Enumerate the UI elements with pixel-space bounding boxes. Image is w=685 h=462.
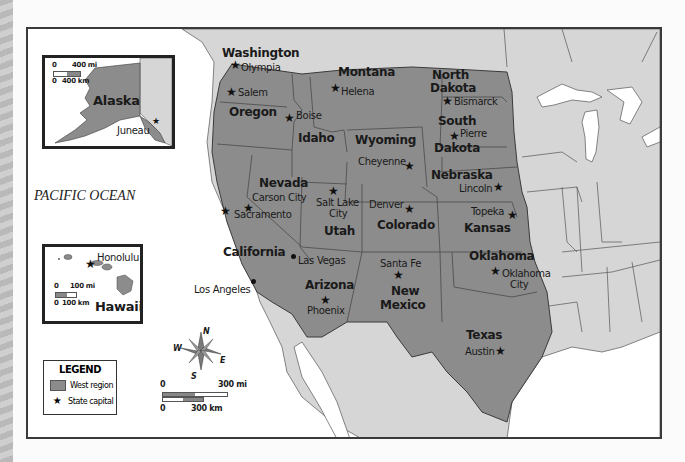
state-label-south-dakota-line2: Dakota	[434, 142, 480, 154]
ocean-label: PACIFIC OCEAN	[34, 189, 135, 203]
capital-label-salt-lake-line1: Salt Lake	[316, 198, 359, 208]
capital-label-pierre: Pierre	[460, 129, 487, 139]
capital-label-boise: Boise	[296, 111, 322, 121]
state-label-nebraska: Nebraska	[431, 169, 493, 181]
state-label-south-dakota-line1: South	[438, 115, 476, 127]
scale-km: 300 km	[191, 405, 222, 413]
state-label-colorado: Colorado	[377, 219, 435, 231]
capital-star-salt-lake-city: ★	[328, 185, 339, 197]
state-label-kansas: Kansas	[464, 222, 511, 234]
capital-star-juneau: ★	[152, 117, 160, 126]
capital-label-denver: Denver	[369, 200, 404, 210]
hawaii-inset: ★ Honolulu 0 100 mi 0 100 km Hawaii	[42, 244, 143, 324]
state-label-new-mexico-line2: Mexico	[380, 299, 426, 311]
alaska-inset: 0 400 mi 0 400 km Alaska ★ Juneau	[42, 55, 175, 149]
alaska-scale-zero-mi: 0	[52, 62, 57, 69]
state-label-nevada: Nevada	[259, 177, 308, 189]
alaska-scale-miles: 400 mi	[72, 62, 97, 69]
legend-item-state-capital: ★State capital	[50, 395, 113, 406]
hawaii-label: Hawaii	[95, 300, 143, 313]
state-label-wyoming: Wyoming	[355, 134, 416, 146]
capital-star-sacramento: ★	[220, 205, 231, 217]
state-label-oregon: Oregon	[229, 106, 277, 118]
capital-star-olympia: ★	[230, 59, 241, 71]
capital-star-topeka: ★	[507, 209, 518, 221]
hawaii-scale-bar	[55, 292, 77, 298]
compass-east: E	[220, 357, 225, 365]
compass-west: W	[173, 345, 182, 353]
capital-star-bismarck: ★	[442, 95, 453, 107]
legend-item-west-region: West region	[50, 380, 113, 391]
capital-label-phoenix: Phoenix	[307, 306, 345, 316]
capital-star-denver: ★	[404, 203, 415, 215]
scale-zero-mi: 0	[160, 381, 165, 389]
state-label-new-mexico-line1: New	[391, 285, 419, 297]
alaska-scale-zero-km: 0	[52, 78, 57, 85]
capital-star-honolulu: ★	[85, 258, 96, 270]
capital-star-austin: ★	[495, 345, 506, 357]
legend-box: LEGEND West region ★State capital	[43, 360, 117, 415]
scale-miles: 300 mi	[218, 381, 247, 389]
capital-label-olympia: Olympia	[241, 63, 280, 73]
capital-label-salem: Salem	[238, 88, 268, 98]
compass-south: S	[191, 373, 197, 381]
state-label-north-dakota-line2: Dakota	[430, 82, 476, 94]
capital-label-austin: Austin	[465, 347, 495, 357]
capital-label-honolulu: Honolulu	[97, 253, 139, 263]
capital-star-salem: ★	[226, 86, 237, 98]
state-label-oklahoma: Oklahoma	[469, 250, 534, 262]
city-label-las-vegas: Las Vegas	[298, 256, 345, 266]
hawaii-scale-miles: 100 mi	[70, 283, 95, 290]
capital-label-sacramento: Sacramento	[234, 210, 291, 220]
hawaii-scale-zero-km: 0	[54, 300, 59, 307]
hawaii-scale-km: 100 km	[62, 300, 89, 307]
alaska-label: Alaska	[93, 94, 140, 107]
capital-label-helena: Helena	[341, 87, 374, 97]
capital-label-lincoln: Lincoln	[459, 184, 492, 194]
state-label-north-dakota-line1: North	[432, 69, 469, 81]
capital-label-salt-lake-line2: City	[329, 209, 347, 219]
capital-label-carson-city: Carson City	[252, 193, 306, 203]
capital-label-juneau: Juneau	[117, 126, 149, 136]
compass-north: N	[203, 328, 210, 336]
state-label-montana: Montana	[338, 66, 395, 78]
decorative-page-edge	[0, 0, 13, 462]
capital-star-oklahoma-city: ★	[490, 265, 501, 277]
state-label-utah: Utah	[324, 225, 355, 237]
scale-zero-km: 0	[160, 405, 165, 413]
capital-star-lincoln: ★	[493, 181, 504, 193]
star-icon: ★	[50, 395, 64, 406]
capital-star-helena: ★	[330, 82, 341, 94]
city-label-los-angeles: Los Angeles	[194, 285, 250, 295]
state-label-texas: Texas	[466, 329, 502, 341]
capital-star-santa-fe: ★	[393, 269, 404, 281]
capital-label-okc-line2: City	[510, 280, 528, 290]
alaska-scale-km: 400 km	[62, 78, 89, 85]
capital-label-bismarck: Bismarck	[454, 97, 498, 107]
state-label-arizona: Arizona	[305, 279, 354, 291]
state-label-california: California	[223, 246, 285, 258]
hawaii-scale-zero-mi: 0	[54, 283, 59, 290]
capital-label-okc-line1: Oklahoma	[502, 269, 551, 279]
state-label-idaho: Idaho	[298, 132, 334, 144]
capital-label-topeka: Topeka	[471, 207, 504, 217]
capital-star-cheyenne: ★	[404, 160, 415, 172]
capital-label-cheyenne: Cheyenne	[358, 157, 406, 167]
map-frame: PACIFIC OCEAN Washington ★ Olympia ★ Sal…	[26, 27, 662, 439]
gray-swatch-icon	[50, 380, 66, 391]
capital-star-boise: ★	[284, 112, 295, 124]
city-dot-las-vegas	[291, 254, 296, 259]
scale-bar-km	[162, 397, 204, 402]
legend-title: LEGEND	[44, 364, 116, 375]
city-dot-los-angeles	[251, 279, 256, 284]
